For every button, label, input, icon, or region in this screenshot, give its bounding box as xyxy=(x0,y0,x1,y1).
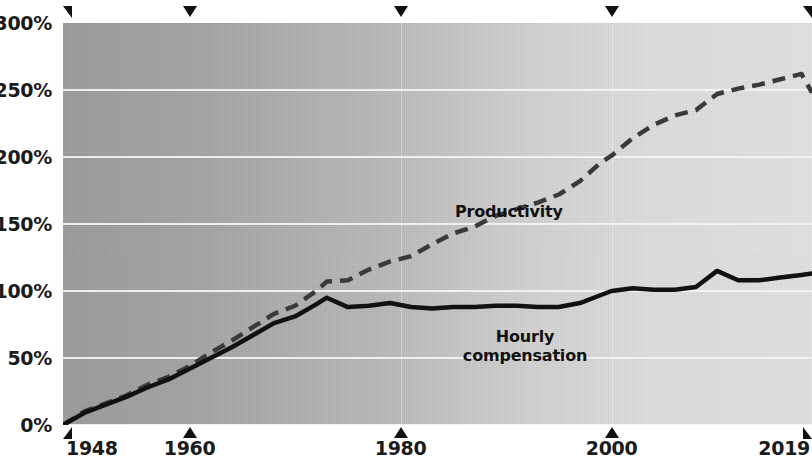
top-tick-marker-1960 xyxy=(183,6,197,17)
x-tick-label-2000: 2000 xyxy=(586,437,638,459)
plot-area xyxy=(63,23,812,425)
top-tick-marker-2000 xyxy=(605,6,619,17)
bottom-tick-marker-1980 xyxy=(394,427,408,438)
y-tick-label-300: 300% xyxy=(0,12,52,34)
bottom-tick-marker-1960 xyxy=(183,427,197,438)
bottom-tick-marker-2000 xyxy=(605,427,619,438)
hourly-compensation-series-label: Hourly compensation xyxy=(455,328,595,366)
x-tick-label-1980: 1980 xyxy=(375,437,427,459)
x-tick-label-1960: 1960 xyxy=(164,437,216,459)
bottom-tick-marker-2019 xyxy=(803,427,812,439)
hourly-compensation-line xyxy=(63,271,812,425)
series-lines xyxy=(63,23,812,425)
productivity-line xyxy=(63,74,812,425)
top-tick-marker-1980 xyxy=(394,6,408,17)
y-tick-label-50: 50% xyxy=(0,347,52,369)
top-tick-marker-1948 xyxy=(63,6,72,18)
top-tick-marker-2019 xyxy=(803,6,812,18)
y-tick-label-0: 0% xyxy=(0,414,52,436)
y-tick-label-250: 250% xyxy=(0,79,52,101)
bottom-tick-marker-1948 xyxy=(63,427,72,439)
y-tick-label-100: 100% xyxy=(0,280,52,302)
productivity-pay-gap-chart: 300%250%200%150%100%50%0% 19481960198020… xyxy=(0,0,812,474)
x-tick-label-1948: 1948 xyxy=(66,437,118,459)
y-tick-label-150: 150% xyxy=(0,213,52,235)
x-tick-label-2019: 2019 xyxy=(758,437,810,459)
y-tick-label-200: 200% xyxy=(0,146,52,168)
productivity-series-label: Productivity xyxy=(455,203,563,222)
